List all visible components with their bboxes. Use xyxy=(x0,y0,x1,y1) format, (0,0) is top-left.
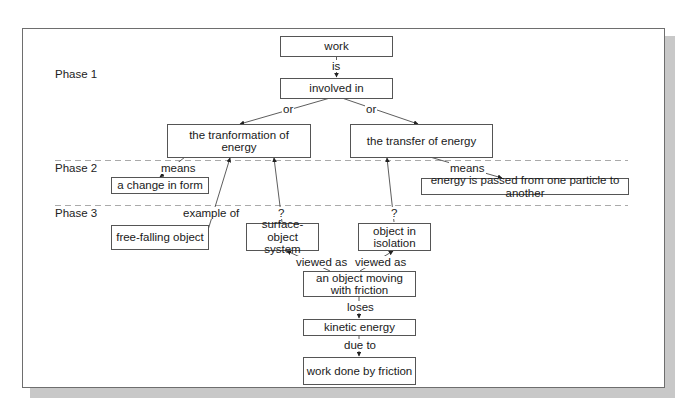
edge-label-or-right: or xyxy=(365,103,377,115)
edge-label-means-right: means xyxy=(449,162,486,174)
edge-label-example-of: example of xyxy=(182,207,240,219)
node-free-falling-object: free-falling object xyxy=(111,225,209,250)
edge-label-is: is xyxy=(331,60,341,72)
node-object-moving-with-friction: an object moving with friction xyxy=(303,271,416,297)
phase-2-label: Phase 2 xyxy=(55,162,97,174)
node-transformation-of-energy: the tranformation of energy xyxy=(167,124,311,158)
edge-label-question-left: ? xyxy=(277,207,285,219)
edge-label-question-right: ? xyxy=(390,207,398,219)
node-change-in-form: a change in form xyxy=(111,177,209,194)
node-work: work xyxy=(280,36,393,57)
edge-label-means-left: means xyxy=(160,162,197,174)
node-object-in-isolation: object in isolation xyxy=(358,223,431,251)
edge-label-viewed-as-left: viewed as xyxy=(295,256,348,268)
edge-label-loses: loses xyxy=(346,301,375,313)
node-kinetic-energy: kinetic energy xyxy=(303,319,416,336)
node-involved-in: involved in xyxy=(280,78,393,99)
edge-label-or-left: or xyxy=(282,103,294,115)
node-transfer-of-energy: the transfer of energy xyxy=(350,124,493,158)
phase-3-label: Phase 3 xyxy=(55,207,97,219)
phase-1-label: Phase 1 xyxy=(55,68,97,80)
node-surface-object-system: surface-object system xyxy=(246,223,319,251)
node-work-done-by-friction: work done by friction xyxy=(303,357,416,385)
edge-label-due-to: due to xyxy=(343,339,377,351)
edge-label-viewed-as-right: viewed as xyxy=(354,256,407,268)
node-energy-passed: energy is passed from one particle to an… xyxy=(421,178,629,195)
